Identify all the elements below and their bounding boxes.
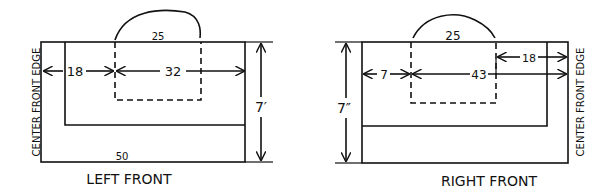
left-dim-right-label: 32 — [165, 64, 182, 79]
right-dim-mid-label: 43 — [471, 68, 486, 82]
right-title: RIGHT FRONT — [441, 173, 538, 189]
right-height-label: 7″ — [337, 100, 351, 116]
left-top-label: 25 — [152, 31, 165, 42]
right-edge-label: CENTER FRONT EDGE — [575, 48, 586, 157]
left-height-label: 7′ — [255, 99, 267, 115]
right-dim-upper-label: 18 — [522, 52, 536, 65]
left-dim-left-label: 18 — [67, 64, 84, 79]
left-title: LEFT FRONT — [86, 171, 172, 187]
right-dim-left-label: 7 — [380, 68, 388, 82]
left-inner-rect — [65, 42, 245, 125]
right-top-label: 25 — [445, 29, 460, 43]
pattern-diagram: 25 50 18 32 7′ CENTER FRONT EDGE LEFT FR… — [0, 0, 596, 192]
left-bottom-label: 50 — [116, 151, 129, 162]
left-outer-rect — [41, 42, 245, 162]
left-edge-label: CENTER FRONT EDGE — [31, 48, 42, 157]
right-inner-rect — [362, 42, 547, 126]
